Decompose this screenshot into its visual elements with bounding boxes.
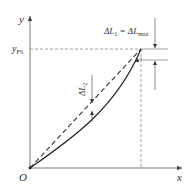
x-axis-label-text: x	[177, 171, 182, 183]
yfs-label-subscript: FS	[16, 49, 23, 55]
x-axis-label: x	[177, 172, 182, 183]
delta-l1-label: ΔL1 = ΔLmax	[104, 27, 149, 37]
delta-l1-max-subscript: max	[138, 31, 148, 37]
delta-l2-subscript: 2	[82, 83, 88, 86]
origin-label-text: O	[19, 171, 27, 183]
y-axis-label-text: y	[19, 13, 24, 25]
origin-label: O	[19, 172, 27, 183]
y-axis-label: y	[19, 14, 24, 25]
yfs-label: yFS	[12, 44, 23, 55]
diagram-canvas	[0, 0, 192, 193]
origin-point	[29, 167, 32, 170]
delta-l2-label: ΔL2	[78, 83, 88, 96]
delta-l1-main: ΔL	[104, 26, 114, 36]
reference-line	[30, 49, 141, 168]
delta-l2-main: ΔL	[77, 86, 87, 96]
linearity-error-diagram: y yFS ΔL1 = ΔLmax ΔL2 O x	[0, 0, 192, 193]
delta-l1-equals: = ΔL	[117, 26, 138, 36]
